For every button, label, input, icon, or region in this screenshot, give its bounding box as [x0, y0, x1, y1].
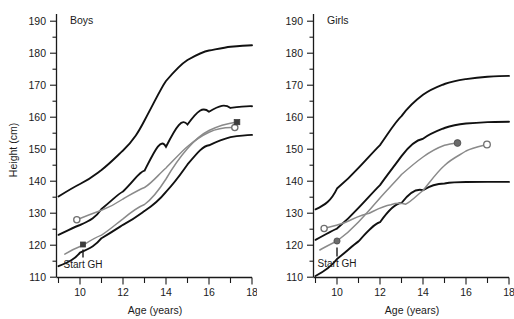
x-axis-title: Age (years): [128, 304, 182, 316]
girls-reference-upper: [316, 76, 510, 209]
girls-marker-start-gh-filled-circle: [334, 238, 340, 244]
x-ticks: [316, 278, 510, 285]
boys-reference-upper: [59, 45, 253, 196]
x-ticks: [59, 278, 253, 285]
y-tick-label: 110: [286, 271, 303, 283]
y-tick-label: 150: [285, 143, 303, 155]
x-tick-label: 14: [160, 286, 172, 298]
x-tick-label: 10: [74, 286, 86, 298]
x-axis-title: Age (years): [385, 304, 439, 316]
y-tick-label: 110: [29, 271, 46, 283]
girls-patient-gh-line: [320, 143, 458, 250]
boys-plot-svg: 190 180 170 160 150 140 130 120 110 Heig…: [0, 0, 257, 319]
girls-patient-open-circle-line: [324, 145, 487, 229]
y-tick-label: 170: [285, 79, 303, 91]
boys-patient-gh-line: [65, 122, 237, 254]
panel-title-boys: Boys: [70, 14, 93, 26]
y-tick-labels: 190 180 170 160 150 140 130 120 110: [28, 15, 46, 283]
y-tick-label: 180: [28, 47, 46, 59]
girls-marker-end-gh-filled-circle: [454, 140, 461, 147]
growth-chart-figure: 190 180 170 160 150 140 130 120 110 Heig…: [0, 0, 514, 319]
x-tick-label: 16: [203, 286, 215, 298]
x-tick-label: 12: [374, 286, 386, 298]
x-tick-label: 18: [503, 286, 514, 298]
x-tick-label: 10: [331, 286, 343, 298]
panel-title-girls: Girls: [327, 14, 349, 26]
boys-reference-lower: [59, 135, 253, 266]
y-tick-label: 160: [28, 111, 46, 123]
boys-marker-start-gh-square: [80, 242, 85, 247]
y-tick-label: 130: [285, 207, 303, 219]
boys-patient-open-circle-line: [77, 127, 235, 219]
y-tick-label: 190: [28, 15, 46, 27]
girls-marker-end-open-circle: [484, 141, 491, 148]
boys-start-gh-label: Start GH: [64, 259, 103, 270]
boys-marker-end-open-circle: [232, 125, 238, 131]
y-tick-label: 180: [285, 47, 303, 59]
y-tick-label: 130: [28, 207, 46, 219]
x-tick-labels: 10 12 14 16 18: [74, 286, 257, 298]
panel-boys: 190 180 170 160 150 140 130 120 110 Heig…: [0, 0, 257, 319]
y-ticks: [307, 21, 314, 277]
x-tick-label: 18: [246, 286, 257, 298]
y-tick-label: 120: [285, 239, 303, 251]
y-tick-label: 190: [285, 15, 303, 27]
x-tick-label: 12: [117, 286, 129, 298]
y-tick-label: 150: [28, 143, 46, 155]
girls-marker-start-open-circle: [321, 225, 327, 231]
y-tick-label: 160: [285, 111, 303, 123]
x-tick-label: 16: [460, 286, 472, 298]
y-tick-label: 170: [28, 79, 46, 91]
boys-marker-start-open-circle: [74, 217, 80, 223]
y-tick-labels: 190 180 170 160 150 140 130 120 110: [285, 15, 303, 283]
panel-girls: 190 180 170 160 150 140 130 120 110: [257, 0, 514, 319]
x-tick-labels: 10 12 14 16 18: [331, 286, 514, 298]
girls-start-gh-label: Start GH: [318, 258, 357, 269]
y-ticks: [50, 21, 57, 277]
y-tick-label: 140: [28, 175, 46, 187]
y-tick-label: 140: [285, 175, 303, 187]
boys-marker-end-gh-square: [234, 120, 240, 125]
y-axis-title: Height (cm): [7, 123, 19, 177]
girls-plot-svg: 190 180 170 160 150 140 130 120 110: [257, 0, 514, 319]
x-tick-label: 14: [417, 286, 429, 298]
y-tick-label: 120: [28, 239, 46, 251]
